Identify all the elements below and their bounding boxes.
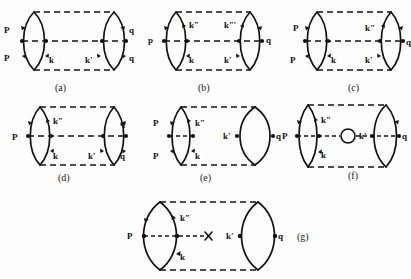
vertex-right-inner	[100, 39, 104, 43]
vertex-right-outer	[397, 134, 401, 138]
cross-mark-icon	[205, 232, 212, 240]
vertex-left-inner	[191, 134, 195, 138]
label-P: P	[282, 132, 288, 141]
figure-b-svg	[158, 6, 268, 76]
label-k: k	[195, 152, 200, 161]
label-q: q	[406, 38, 411, 47]
arrow-left-outer-down	[305, 54, 309, 59]
arrow-right-inner-down	[236, 54, 240, 59]
label-P-upper: P	[153, 119, 159, 128]
label-P-upper: P	[293, 24, 299, 33]
label-P-lower: P	[153, 152, 159, 161]
figure-c-svg	[299, 6, 409, 76]
vertex-left-inner	[326, 39, 330, 43]
arrow-left-outer-down	[170, 149, 174, 154]
caption-f: (f)	[348, 170, 358, 181]
vertex-right-inner	[378, 39, 382, 43]
caption-c: (c)	[348, 82, 359, 93]
vertex-left-inner	[317, 134, 321, 138]
figure-d-svg	[22, 101, 132, 171]
vertex-left-inner	[49, 134, 53, 138]
figure-g-svg	[136, 196, 286, 276]
label-k-prime: k'	[88, 152, 96, 161]
label-q: q	[266, 36, 271, 45]
right-lens-outer-arc	[255, 107, 270, 165]
figure-b: kʺ kʺ' p q k k'	[158, 6, 268, 76]
label-k: k	[53, 152, 58, 161]
label-k-dprime: kʺ	[180, 214, 189, 223]
figure-e: P kʺ P k k' q	[163, 101, 273, 171]
label-P: P	[127, 232, 133, 241]
label-P-lower: P	[4, 54, 10, 63]
vertex-right-inner	[237, 39, 241, 43]
vertex-right-outer	[273, 234, 277, 238]
figure-a: P P k k' q q	[14, 6, 134, 76]
label-P-upper: P	[4, 26, 10, 35]
vertex-right-outer	[401, 39, 405, 43]
label-k-dprime: kʺ	[321, 116, 330, 125]
label-k-dprime: kʺ	[195, 119, 204, 128]
label-k: k	[321, 151, 326, 160]
label-q: q	[402, 132, 407, 141]
arrow-right-inner-down	[97, 54, 101, 59]
label-q: q	[278, 232, 283, 241]
diagram-page: P P k k' q q (a) kʺ kʺ' p	[0, 0, 411, 279]
vertex-left-outer	[303, 39, 307, 43]
figure-d: kʺ P k k' q q	[22, 101, 132, 171]
loop-bubble-icon	[341, 129, 355, 143]
vertex-right-inner	[235, 134, 239, 138]
arrow-right-outer-down	[122, 54, 126, 59]
figure-g: kʺ P k k' q	[136, 196, 286, 276]
label-k: k	[189, 56, 194, 65]
caption-a: (a)	[55, 82, 66, 93]
vertex-left-inner	[44, 39, 48, 43]
vertex-right-outer	[271, 134, 275, 138]
label-k-prime: k'	[223, 132, 231, 141]
arrow-right-inner-down	[100, 149, 104, 154]
label-k: k	[331, 56, 336, 65]
vertex-right-inner	[238, 234, 242, 238]
vertex-left-inner	[185, 39, 189, 43]
label-k-dprime: kʺ	[189, 21, 198, 30]
label-k-prime: k'	[85, 56, 93, 65]
right-lens-inner-arc	[240, 107, 255, 165]
vertex-right-outer	[260, 39, 264, 43]
caption-b: (b)	[198, 82, 210, 93]
vertex-right-inner	[101, 134, 105, 138]
figure-f-svg	[292, 99, 402, 173]
caption-d: (d)	[58, 172, 70, 183]
vertex-left-outer	[295, 134, 299, 138]
caption-g: (g)	[297, 231, 309, 242]
label-k-prime: k'	[365, 56, 373, 65]
label-k-dprime: kʺ	[365, 24, 374, 33]
label-k-prime: k'	[359, 132, 367, 141]
label-q-lower: q	[129, 54, 134, 63]
label-k: k	[49, 56, 54, 65]
vertex-right-inner	[370, 134, 374, 138]
right-lens-inner-arc	[242, 202, 259, 270]
label-P: P	[12, 133, 18, 142]
label-k-prime: k'	[226, 232, 234, 241]
vertex-left-outer	[142, 234, 146, 238]
label-q-upper: q	[120, 119, 125, 128]
vertex-left-inner	[175, 234, 179, 238]
label-k-tprime: kʺ'	[224, 21, 236, 30]
label-q-lower: q	[120, 152, 125, 161]
vertex-left-outer	[20, 39, 24, 43]
vertex-right-outer	[124, 134, 128, 138]
right-lens-outer-arc	[258, 202, 275, 270]
figure-c: P P k kʺ k' q	[299, 6, 409, 76]
label-k-prime: k'	[224, 56, 232, 65]
arrow-right-inner-down	[377, 54, 381, 59]
label-q-upper: q	[129, 26, 134, 35]
label-k: k	[180, 253, 185, 262]
vertex-left-outer	[26, 134, 30, 138]
vertex-left-outer	[167, 134, 171, 138]
caption-e: (e)	[200, 172, 211, 183]
label-k-dprime: kʺ	[53, 117, 62, 126]
figure-f: kʺ P k k' q	[292, 99, 402, 173]
label-q: q	[276, 132, 281, 141]
figure-e-svg	[163, 101, 273, 171]
label-p: p	[148, 36, 153, 45]
vertex-left-outer	[162, 39, 166, 43]
